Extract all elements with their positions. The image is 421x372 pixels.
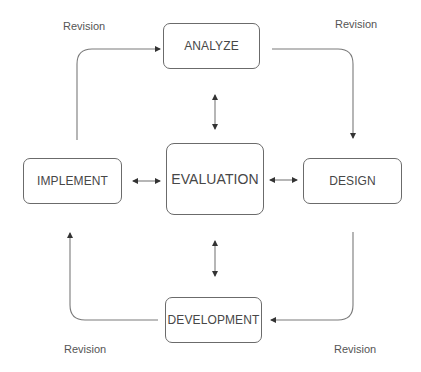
node-implement[interactable]: IMPLEMENT	[23, 158, 122, 204]
node-implement-label: IMPLEMENT	[37, 174, 108, 188]
node-design[interactable]: DESIGN	[303, 158, 402, 204]
node-analyze-label: ANALYZE	[184, 39, 239, 53]
node-evaluation-label: EVALUATION	[171, 171, 259, 187]
revision-arrow-design-to-development	[271, 232, 353, 320]
revision-arrow-analyze-to-design	[272, 49, 353, 138]
node-design-label: DESIGN	[329, 174, 376, 188]
addie-cycle-diagram: Revision Revision Revision Revision ANAL…	[0, 0, 421, 372]
revision-label-bottom-right: Revision	[334, 343, 376, 355]
revision-label-top-left: Revision	[63, 20, 105, 32]
node-development[interactable]: DEVELOPMENT	[165, 297, 262, 343]
revision-arrow-implement-to-analyze	[77, 49, 160, 140]
revision-label-top-right: Revision	[335, 18, 377, 30]
revision-arrow-development-to-implement	[70, 233, 158, 320]
node-development-label: DEVELOPMENT	[168, 313, 260, 327]
revision-label-bottom-left: Revision	[64, 343, 106, 355]
node-evaluation[interactable]: EVALUATION	[166, 143, 264, 215]
node-analyze[interactable]: ANALYZE	[163, 23, 260, 69]
